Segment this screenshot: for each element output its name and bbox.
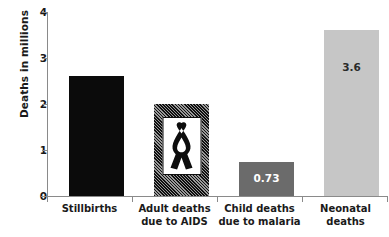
x-category-label-stillbirths: Stillbirths	[47, 203, 132, 216]
x-tick-mark-1	[132, 196, 133, 202]
x-category-label-child-deaths-malaria: Child deaths due to malaria	[217, 203, 302, 228]
bar-chart: Deaths in millions 4 3 2 1 0	[0, 0, 389, 237]
x-tick-mark-3	[302, 196, 303, 202]
bar-child-deaths-malaria: 0.73	[239, 162, 294, 196]
bar-adult-deaths-aids	[154, 104, 209, 196]
bar-neonatal-deaths: 3.6	[324, 30, 379, 196]
x-tick-mark-4	[387, 196, 388, 202]
x-tick-mark-0	[47, 196, 48, 202]
plot-area: 0.73 3.6	[47, 12, 388, 196]
bar-value-neonatal-deaths: 3.6	[324, 62, 379, 73]
bar-value-child-deaths-malaria: 0.73	[239, 173, 294, 184]
x-axis-line	[41, 196, 388, 197]
x-category-label-neonatal-deaths: Neonatal deaths	[302, 203, 389, 228]
x-category-label-adult-deaths-aids: Adult deaths due to AIDS	[132, 203, 217, 228]
x-tick-mark-2	[217, 196, 218, 202]
bar-stillbirths	[69, 76, 124, 196]
y-axis-ticks: 4 3 2 1 0	[0, 0, 47, 237]
aids-awareness-ribbon-icon	[162, 117, 201, 175]
